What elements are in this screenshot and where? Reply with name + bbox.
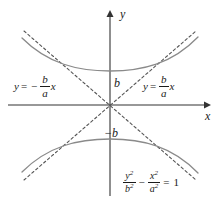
asymptote-label-positive-slope: y = b a x	[143, 74, 175, 99]
equation-equals: =	[163, 177, 169, 188]
equation-term1-denominator: b2	[123, 182, 136, 194]
equation-term2-numerator: x2	[148, 171, 160, 182]
asymptote-left-lhs: y	[14, 81, 19, 92]
vertex-label-negative-b: −b	[104, 127, 118, 139]
equation-term1-den-exponent: 2	[130, 182, 134, 190]
y-axis-label: y	[120, 8, 125, 20]
x-axis-label: x	[205, 110, 210, 122]
asymptote-left-fraction: b a	[40, 74, 50, 99]
asymptote-left-denominator: a	[40, 86, 50, 99]
hyperbola-plot	[0, 0, 219, 203]
equation-term1-numerator: y2	[123, 171, 135, 182]
equation-term2: x2 a2	[148, 171, 161, 194]
equation-term2-denominator: a2	[148, 182, 161, 194]
asymptote-left-equals: =	[21, 81, 27, 92]
asymptote-left-sign: −	[31, 81, 37, 92]
asymptote-left-variable: x	[51, 81, 56, 92]
asymptote-right-lhs: y	[143, 81, 148, 92]
equation-term2-num-exponent: 2	[154, 169, 158, 177]
asymptote-right-numerator: b	[159, 74, 169, 86]
equation-term1-num-exponent: 2	[130, 169, 134, 177]
vertex-label-b: b	[114, 77, 120, 89]
y-axis-arrowhead	[107, 10, 114, 17]
asymptote-right-equals: =	[150, 81, 156, 92]
asymptote-label-negative-slope: y = − b a x	[14, 74, 56, 99]
equation-operator: −	[139, 177, 145, 188]
x-axis-arrowhead	[204, 102, 211, 109]
asymptote-right-denominator: a	[159, 86, 169, 99]
equation-rhs: 1	[173, 177, 179, 188]
asymptote-right-fraction: b a	[159, 74, 169, 99]
asymptote-left-numerator: b	[40, 74, 50, 86]
equation-term1: y2 b2	[123, 171, 136, 194]
asymptote-right-variable: x	[170, 81, 175, 92]
equation-term2-den-exponent: 2	[155, 182, 159, 190]
hyperbola-equation: y2 b2 − x2 a2 = 1	[122, 166, 181, 194]
hyperbola-figure: y x b −b y = − b a x y = b a x	[0, 0, 219, 203]
